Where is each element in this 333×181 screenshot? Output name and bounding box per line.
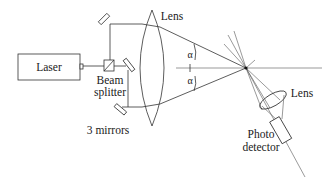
photo-detector-label-2: detector bbox=[242, 141, 279, 153]
beam-splitter-label-1: Beam bbox=[97, 74, 124, 86]
photo-detector-label-1: Photo bbox=[248, 128, 275, 140]
detector-lens-label: Lens bbox=[291, 87, 314, 99]
detector-lens bbox=[257, 87, 289, 121]
mirror-bottom bbox=[114, 104, 127, 115]
mirror-top bbox=[98, 13, 109, 24]
laser: Laser bbox=[18, 54, 83, 80]
optical-setup-diagram: Laser Beam splitter 3 mirrors Lens α α bbox=[0, 0, 333, 181]
scatter-fan bbox=[224, 31, 305, 177]
beam-splitter bbox=[104, 60, 114, 71]
angle-arc-top bbox=[194, 44, 196, 60]
angle-alpha-top: α bbox=[187, 49, 193, 60]
focal-point bbox=[244, 66, 247, 69]
mirror-right bbox=[123, 58, 135, 71]
mirrors-label: 3 mirrors bbox=[87, 124, 130, 136]
upper-converging-beam bbox=[160, 27, 246, 68]
angle-alpha-bottom: α bbox=[187, 75, 193, 86]
beam-splitter-label-2: splitter bbox=[94, 86, 126, 99]
main-lens-label: Lens bbox=[161, 10, 184, 22]
laser-label: Laser bbox=[36, 61, 62, 73]
lower-converging-beam bbox=[160, 68, 246, 104]
